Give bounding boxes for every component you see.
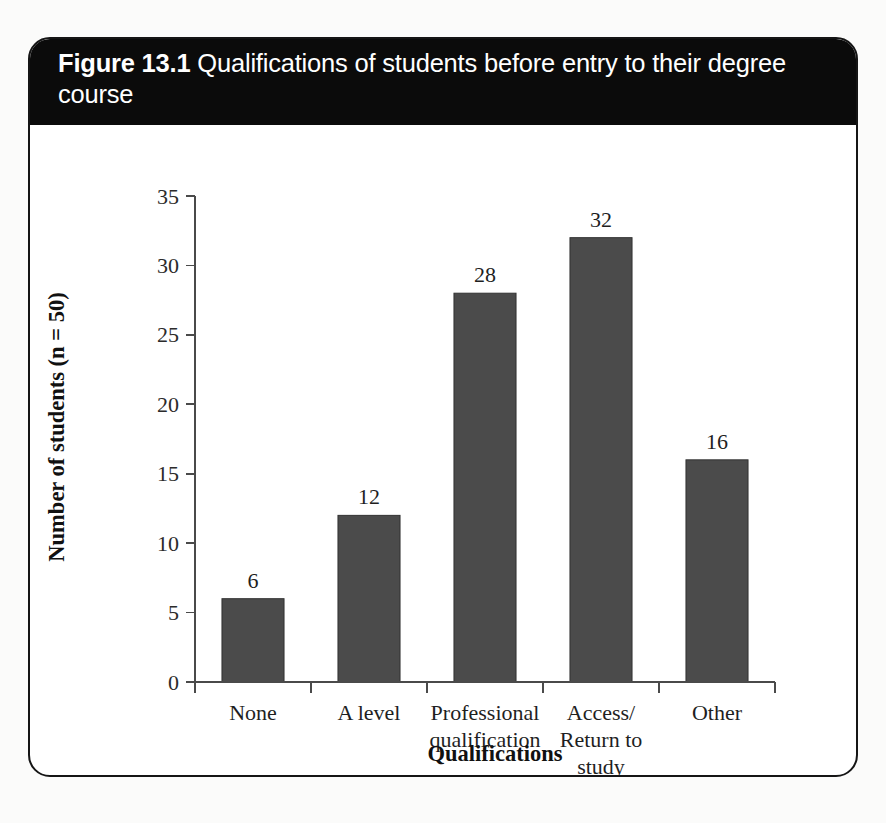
- figure-number: Figure 13.1: [58, 49, 190, 77]
- y-tick-label: 10: [157, 531, 179, 556]
- x-tick-label: A level: [338, 700, 401, 725]
- x-tick-label: Access/Return tostudy: [560, 700, 643, 775]
- y-axis-title: Number of students (n = 50): [44, 292, 69, 561]
- bar-value-label: 16: [706, 429, 728, 454]
- y-tick-label: 35: [157, 184, 179, 209]
- bar-value-label: 32: [590, 207, 612, 232]
- bar: [338, 515, 400, 682]
- y-tick-label: 0: [168, 670, 179, 695]
- bar-value-label: 6: [248, 568, 259, 593]
- bar: [454, 293, 516, 682]
- figure-card: Figure 13.1 Qualifications of students b…: [28, 37, 858, 777]
- y-tick-label: 30: [157, 253, 179, 278]
- bar-chart-svg: 612283216 05101520253035 NoneA levelProf…: [30, 127, 856, 775]
- bar: [570, 238, 632, 682]
- x-axis: [195, 682, 775, 693]
- bar-chart: 612283216 05101520253035 NoneA levelProf…: [30, 127, 856, 775]
- x-tick-label: Other: [692, 700, 743, 725]
- y-axis: 05101520253035: [157, 184, 195, 695]
- y-tick-label: 15: [157, 461, 179, 486]
- y-tick-label: 20: [157, 392, 179, 417]
- bar-series: [222, 238, 748, 682]
- bar: [222, 599, 284, 682]
- y-tick-label: 25: [157, 322, 179, 347]
- figure-header-bar: Figure 13.1 Qualifications of students b…: [28, 37, 858, 125]
- y-tick-label: 5: [168, 600, 179, 625]
- bar-value-label: 28: [474, 262, 496, 287]
- figure-caption: Figure 13.1 Qualifications of students b…: [58, 48, 828, 110]
- x-axis-title: Qualifications: [427, 741, 562, 766]
- bar: [686, 460, 748, 682]
- x-tick-label: None: [229, 700, 277, 725]
- bar-value-label: 12: [358, 484, 380, 509]
